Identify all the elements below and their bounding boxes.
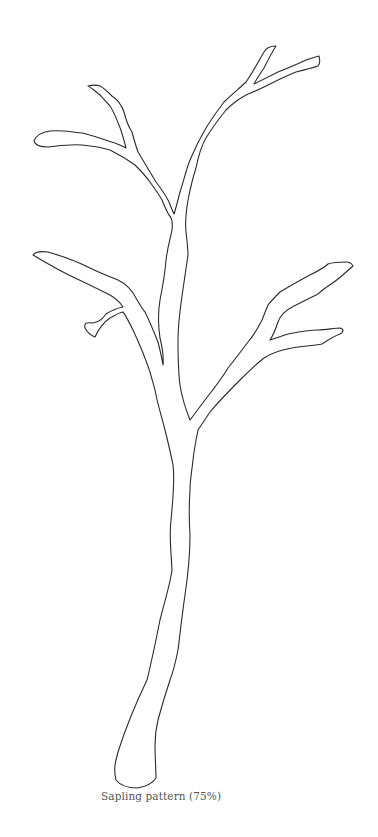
sapling-outline-drawing <box>0 0 378 837</box>
figure-caption: Sapling pattern (75%) <box>101 790 221 802</box>
tree-outline <box>33 46 353 788</box>
sapling-pattern-figure: Sapling pattern (75%) <box>0 0 378 837</box>
